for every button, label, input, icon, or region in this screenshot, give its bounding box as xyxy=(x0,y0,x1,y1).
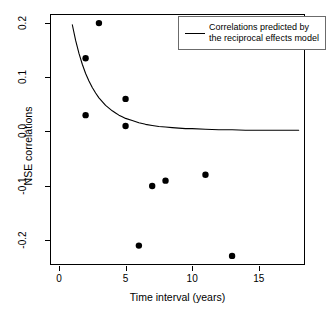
y-tick-label: 0.2 xyxy=(18,6,28,40)
x-tick-label: 5 xyxy=(111,274,141,284)
data-point xyxy=(122,96,128,102)
data-point xyxy=(149,183,155,189)
legend: Correlations predicted by the reciprocal… xyxy=(178,16,326,50)
data-point xyxy=(136,242,142,248)
data-point xyxy=(122,123,128,129)
legend-line-icon xyxy=(183,33,207,34)
data-point xyxy=(96,20,102,26)
x-tick-mark xyxy=(59,266,60,271)
x-axis-label: Time interval (years) xyxy=(50,291,305,303)
legend-label: Correlations predicted by the reciprocal… xyxy=(209,22,319,44)
legend-label-line2: the reciprocal effects model xyxy=(209,33,319,44)
x-tick-mark xyxy=(259,266,260,271)
x-tick-label: 0 xyxy=(44,274,74,284)
data-point xyxy=(229,253,235,259)
legend-line-swatch xyxy=(185,33,205,34)
legend-label-line1: Correlations predicted by xyxy=(209,22,319,33)
y-axis-label: NSE correlations xyxy=(22,76,34,216)
data-point xyxy=(82,112,88,118)
x-tick-mark xyxy=(192,266,193,271)
data-point xyxy=(82,55,88,61)
plot-frame xyxy=(50,14,305,265)
data-points xyxy=(82,20,235,259)
data-point xyxy=(162,177,168,183)
plot-area xyxy=(51,15,304,264)
plot-canvas xyxy=(51,15,304,264)
x-tick-label: 10 xyxy=(177,274,207,284)
figure-scatter-nse-correlations: 0.20.10.0-0.1-0.2 051015 NSE correlation… xyxy=(0,0,334,309)
x-tick-mark xyxy=(126,266,127,271)
x-tick-label: 15 xyxy=(244,274,274,284)
data-point xyxy=(202,171,208,177)
y-tick-label: -0.2 xyxy=(18,223,28,257)
